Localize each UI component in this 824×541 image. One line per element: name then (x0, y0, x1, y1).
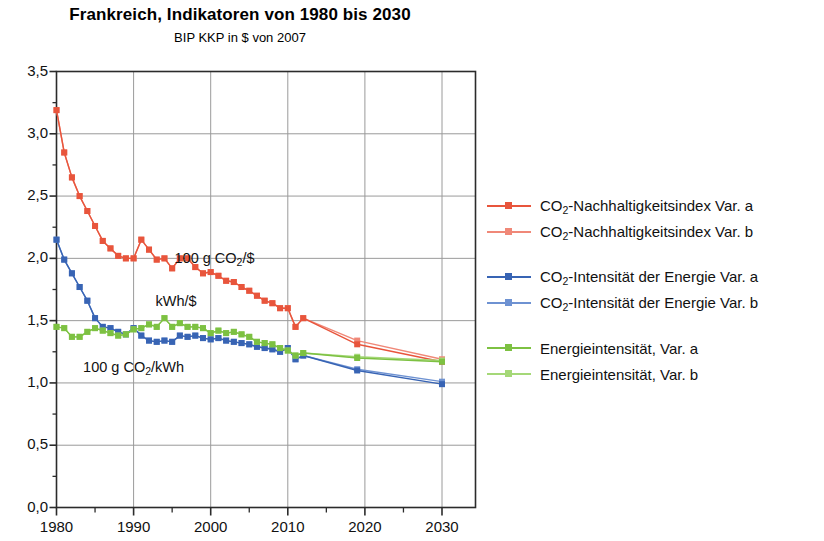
data-point (84, 208, 90, 214)
data-point (246, 288, 252, 294)
data-point (92, 325, 98, 331)
data-point (177, 320, 183, 326)
data-point (185, 324, 191, 330)
data-point (208, 269, 214, 275)
data-point (54, 107, 60, 113)
data-point (285, 305, 291, 311)
data-point (77, 284, 83, 290)
y-tick-label: 1,5 (4, 311, 48, 328)
legend-group: CO2-Nachhaltigkeitsindex Var. aCO2-Nachh… (487, 193, 822, 245)
data-point (285, 348, 291, 354)
legend-item[interactable]: CO2-Nachhaltigkeitsindex Var. a (487, 193, 822, 219)
legend-label: CO2-Nachhaltigkeitsindex Var. b (540, 223, 753, 242)
data-point (223, 278, 229, 284)
legend-label: CO2-Intensität der Energie Var. a (540, 268, 758, 287)
data-point (69, 270, 75, 276)
legend-label: Energieintensität, Var. b (540, 366, 698, 383)
x-tick-label: 1990 (104, 518, 164, 535)
data-point (84, 298, 90, 304)
legend-item[interactable]: CO2-Nachhaltigkeitsindex Var. b (487, 219, 822, 245)
data-point (77, 334, 83, 340)
x-tick-label: 2030 (412, 518, 472, 535)
data-point (300, 350, 306, 356)
data-point (439, 381, 445, 387)
data-point (154, 257, 160, 263)
legend-item[interactable]: Energieintensität, Var. b (487, 361, 822, 387)
chart-figure: Frankreich, Indikatoren von 1980 bis 203… (0, 0, 824, 541)
y-tick-label: 0,5 (4, 435, 48, 452)
data-point (54, 237, 60, 243)
data-point (192, 324, 198, 330)
data-point (231, 329, 237, 335)
legend-item[interactable]: CO2-Intensität der Energie Var. a (487, 264, 822, 290)
data-point (123, 255, 129, 261)
y-tick-label: 2,0 (4, 248, 48, 265)
y-tick-label: 1,0 (4, 373, 48, 390)
data-point (138, 325, 144, 331)
data-point (293, 353, 299, 359)
legend-swatch-icon (487, 270, 531, 284)
chart-annotation: 100 g CO2/kWh (83, 359, 184, 375)
data-point (231, 339, 237, 345)
data-point (277, 305, 283, 311)
data-point (100, 238, 106, 244)
data-point (200, 270, 206, 276)
data-point (107, 330, 113, 336)
data-point (61, 257, 67, 263)
chart-legend: CO2-Nachhaltigkeitsindex Var. aCO2-Nachh… (487, 193, 822, 387)
legend-group-gap (487, 316, 822, 335)
y-tick-label: 0,0 (4, 498, 48, 515)
data-point (169, 339, 175, 345)
data-point (269, 300, 275, 306)
data-point (77, 193, 83, 199)
data-point (61, 325, 67, 331)
data-point (177, 333, 183, 339)
data-point (69, 334, 75, 340)
data-point (138, 237, 144, 243)
legend-item[interactable]: Energieintensität, Var. a (487, 335, 822, 361)
data-point (246, 341, 252, 347)
data-point (439, 359, 445, 365)
data-point (223, 338, 229, 344)
x-tick-label: 2020 (335, 518, 395, 535)
data-point (169, 265, 175, 271)
data-point (293, 324, 299, 330)
y-tick-label: 2,5 (4, 186, 48, 203)
chart-annotation: kWh/$ (155, 293, 196, 309)
y-tick-label: 3,0 (4, 124, 48, 141)
data-point (161, 338, 167, 344)
data-point (239, 340, 245, 346)
series-line (57, 110, 443, 362)
data-point (154, 339, 160, 345)
series-1 (54, 107, 446, 362)
data-point (61, 149, 67, 155)
legend-group: Energieintensität, Var. aEnergieintensit… (487, 335, 822, 387)
data-point (215, 273, 221, 279)
legend-group-gap (487, 245, 822, 264)
series-4 (54, 315, 446, 365)
data-point (185, 334, 191, 340)
data-point (92, 315, 98, 321)
legend-label: CO2-Intensität der Energie Var. b (540, 294, 758, 313)
x-tick-label: 1980 (27, 518, 87, 535)
data-point (354, 341, 360, 347)
chart-annotation: 100 g CO2/$ (175, 250, 255, 266)
data-point (84, 329, 90, 335)
data-point (215, 328, 221, 334)
data-point (354, 355, 360, 361)
data-point (200, 335, 206, 341)
data-point (269, 341, 275, 347)
data-point (92, 223, 98, 229)
data-point (169, 324, 175, 330)
data-point (123, 331, 129, 337)
data-point (192, 333, 198, 339)
legend-label: Energieintensität, Var. a (540, 340, 698, 357)
legend-swatch-icon (487, 341, 531, 355)
legend-item[interactable]: CO2-Intensität der Energie Var. b (487, 290, 822, 316)
data-point (354, 367, 360, 373)
data-point (100, 328, 106, 334)
data-point (131, 255, 137, 261)
data-point (115, 253, 121, 259)
data-point (208, 330, 214, 336)
data-point (254, 339, 260, 345)
